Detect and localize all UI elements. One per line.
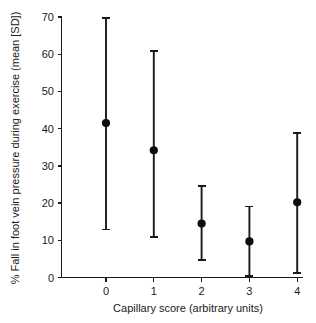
y-tick-label-10: 10 [42, 234, 54, 246]
data-marker-2 [198, 219, 206, 227]
y-tick-label-0: 0 [48, 272, 54, 284]
data-marker-4 [293, 198, 301, 206]
y-tick-label-30: 30 [42, 160, 54, 172]
y-tick-label-60: 60 [42, 48, 54, 60]
data-marker-3 [245, 237, 253, 245]
x-axis-title: Capillary score (arbitrary units) [113, 302, 263, 314]
y-axis-title: % Fall in foot vein pressure during exer… [9, 12, 21, 285]
y-tick-label-40: 40 [42, 123, 54, 135]
x-tick-label-0: 0 [103, 285, 109, 297]
x-tick-label-1: 1 [151, 285, 157, 297]
x-tick-label-4: 4 [294, 285, 300, 297]
y-tick-label-20: 20 [42, 197, 54, 209]
data-marker-0 [102, 119, 110, 127]
chart-figure: 010203040506070 01234 Capillary score (a… [0, 0, 316, 323]
x-tick-label-3: 3 [246, 285, 252, 297]
data-marker-1 [150, 146, 158, 154]
y-tick-label-70: 70 [42, 11, 54, 23]
y-tick-label-50: 50 [42, 85, 54, 97]
x-tick-label-2: 2 [199, 285, 205, 297]
scatter-plot-canvas: 010203040506070 01234 Capillary score (a… [0, 0, 316, 323]
